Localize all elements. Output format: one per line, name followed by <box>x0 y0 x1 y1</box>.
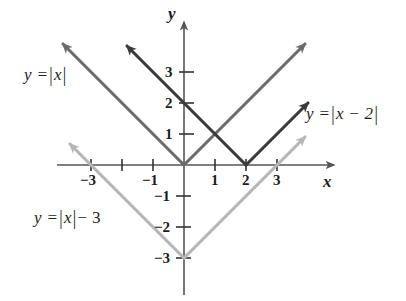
y-tick-label-3: 3 <box>165 64 173 81</box>
annotation-abs-x-minus-3-var: x <box>64 208 72 227</box>
y-tick-label-neg1: −1 <box>154 188 170 205</box>
annotation-abs-x-lhs: y = <box>24 65 48 84</box>
x-tick-label-3: 3 <box>273 172 281 189</box>
curve-abs-x-minus-2-left-branch <box>127 46 246 165</box>
axes-group <box>57 22 334 295</box>
annotation-abs-x-minus-2-lhs: y = <box>306 104 330 123</box>
abs-bar-close-icon: | <box>62 63 68 88</box>
y-axis-label: y <box>168 4 176 24</box>
y-tick-label-neg2: −2 <box>154 219 170 236</box>
annotation-abs-x-minus-3-lhs: y = <box>34 208 58 227</box>
annotation-equation-abs-x-minus-3: y =|x|− 3 <box>34 208 101 228</box>
y-tick-label-neg3: −3 <box>154 250 170 267</box>
annotation-abs-x-var: x <box>54 65 62 84</box>
x-tick-label-neg1: −1 <box>142 172 158 189</box>
abs-bar-open-icon: | <box>330 102 336 127</box>
x-axis-label: x <box>323 172 332 192</box>
curve-abs-x-minus-2 <box>127 46 308 165</box>
abs-bar-close-icon: | <box>72 206 78 231</box>
annotation-abs-x-minus-2-inner: x − 2 <box>336 104 374 123</box>
curve-abs-x-minus-3-right-branch <box>184 137 305 258</box>
annotation-equation-abs-x-minus-2: y =|x − 2| <box>306 104 379 124</box>
x-tick-label-neg3: −3 <box>80 172 96 189</box>
x-tick-label-2: 2 <box>242 172 250 189</box>
x-tick-label-1: 1 <box>211 172 219 189</box>
y-tick-label-1: 1 <box>165 126 173 143</box>
abs-bar-close-icon: | <box>373 102 379 127</box>
y-tick-label-2: 2 <box>165 95 173 112</box>
curve-abs-x-right-branch <box>184 44 305 165</box>
curve-abs-x-minus-2-right-branch <box>246 103 308 165</box>
abs-bar-open-icon: | <box>58 206 64 231</box>
graph-figure: y x −3 −1 1 2 3 1 2 3 −1 −2 −3 y =|x| y … <box>0 0 406 301</box>
curve-abs-x-minus-3 <box>70 137 305 258</box>
annotation-equation-abs-x: y =|x| <box>24 65 67 85</box>
annotation-abs-x-minus-3-tail: − 3 <box>77 208 100 227</box>
abs-bar-open-icon: | <box>48 63 54 88</box>
coordinate-plane-svg <box>0 0 406 301</box>
